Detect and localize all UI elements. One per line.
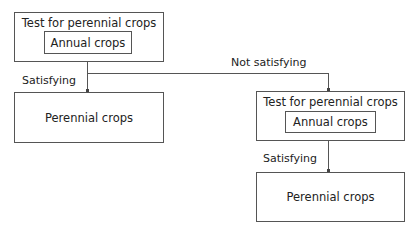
test-title-2: Test for perennial crops [257,95,404,109]
perennial-crops-box-2: Perennial crops [256,172,405,222]
not-satisfying-label: Not satisfying [231,56,307,69]
satisfying-label-1: Satisfying [22,74,76,87]
perennial-crops-box-1: Perennial crops [14,92,164,143]
connector-test1-to-test2-horizontal [87,73,329,74]
perennial-crops-label-1: Perennial crops [45,111,133,125]
test-box-1: Test for perennial crops Annual crops [14,12,164,62]
satisfying-label-2: Satisfying [263,152,317,165]
annual-crops-box-1: Annual crops [44,31,132,54]
perennial-crops-label-2: Perennial crops [287,190,375,204]
test-box-2: Test for perennial crops Annual crops [256,91,405,141]
connector-test2-to-result2 [328,140,329,172]
connector-test1-to-result1 [87,61,88,92]
test-title-1: Test for perennial crops [15,16,163,30]
annual-crops-box-2: Annual crops [285,111,376,133]
